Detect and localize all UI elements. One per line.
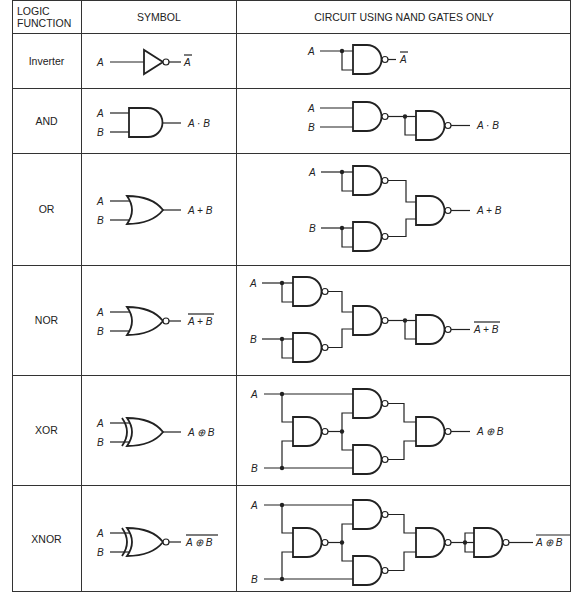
svg-text:A: A [250,500,258,511]
svg-text:A ⊕ B: A ⊕ B [535,537,563,548]
nand-circuits-icon: A A A B A · B A B A + [0,0,584,609]
svg-text:A: A [307,103,315,114]
xnor-nand-circuit: A B A ⊕ B [250,500,570,585]
svg-text:A · B: A · B [476,120,499,131]
svg-text:B: B [250,334,257,345]
svg-text:A: A [250,389,258,400]
svg-text:B: B [251,574,258,585]
svg-text:A + B: A + B [476,205,502,216]
svg-text:B: B [309,223,316,234]
svg-text:A: A [399,54,407,65]
svg-text:B: B [251,463,258,474]
or-nand-circuit: A B A + B [308,166,502,251]
svg-text:A: A [249,278,257,289]
svg-text:A ⊕ B: A ⊕ B [476,426,504,437]
svg-text:A: A [307,46,315,57]
inverter-nand-circuit: A A [307,45,408,74]
xor-nand-circuit: A B A ⊕ B [250,389,504,474]
nor-nand-circuit: A B A + B [249,277,500,362]
svg-text:B: B [308,122,315,133]
svg-text:A: A [308,167,316,178]
and-nand-circuit: A B A · B [307,102,499,140]
svg-text:A + B: A + B [473,324,499,335]
